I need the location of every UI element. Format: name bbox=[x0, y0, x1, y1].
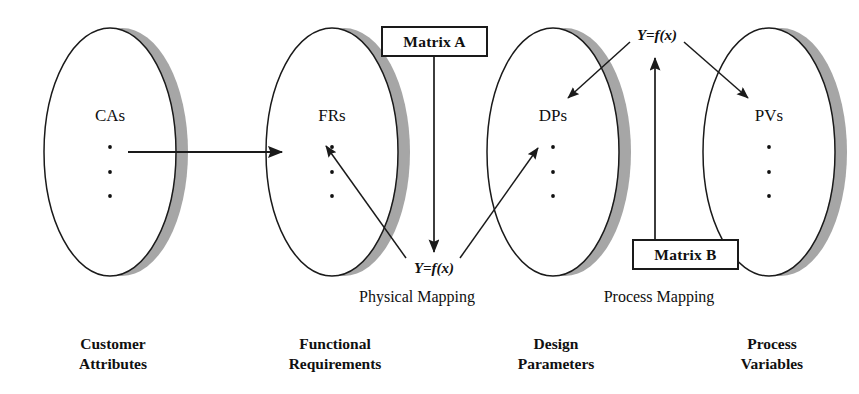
caption-line-2: Requirements bbox=[289, 354, 382, 374]
equation-process: Y=f(x) bbox=[637, 28, 677, 43]
caption-line-1: Functional bbox=[299, 335, 370, 352]
ellipsis-dots bbox=[108, 145, 771, 198]
diagram-canvas: CAs FRs DPs PVs Matrix A Matrix B Y=f(x)… bbox=[0, 0, 859, 394]
caption-line-2: Parameters bbox=[518, 354, 595, 374]
caption-customer-attributes: Customer Attributes bbox=[79, 334, 147, 374]
process-mapping-label: Process Mapping bbox=[604, 289, 715, 305]
caption-line-2: Attributes bbox=[79, 354, 147, 374]
caption-line-1: Customer bbox=[80, 335, 145, 352]
caption-functional-requirements: Functional Requirements bbox=[289, 334, 382, 374]
caption-line-2: Variables bbox=[741, 354, 803, 374]
caption-line-1: Design bbox=[534, 335, 579, 352]
caption-design-parameters: Design Parameters bbox=[518, 334, 595, 374]
set-label-pvs: PVs bbox=[755, 107, 783, 124]
set-label-dps: DPs bbox=[539, 107, 567, 124]
ellipse-functional-requirements bbox=[266, 28, 410, 276]
ellipse-process-variables bbox=[703, 28, 847, 276]
set-label-cas: CAs bbox=[95, 107, 125, 124]
set-label-frs: FRs bbox=[318, 107, 345, 124]
physical-mapping-label: Physical Mapping bbox=[359, 289, 475, 305]
matrix-b-label: Matrix B bbox=[654, 247, 716, 263]
matrix-a-label: Matrix A bbox=[403, 34, 465, 50]
caption-line-1: Process bbox=[747, 335, 797, 352]
equation-physical: Y=f(x) bbox=[414, 261, 454, 276]
caption-process-variables: Process Variables bbox=[741, 334, 803, 374]
ellipse-design-parameters bbox=[487, 28, 631, 276]
